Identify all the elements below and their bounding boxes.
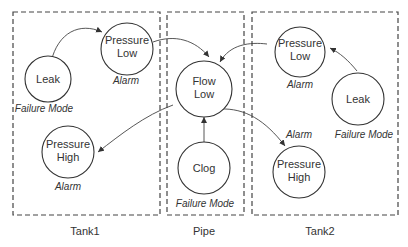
node-tank2-pressure-low[interactable]: Pressure Low Alarm [275,27,325,90]
node-type-label: Failure Mode [15,103,74,114]
node-tank2-pressure-high[interactable]: Pressure High Alarm [273,129,325,198]
node-label: Flow [192,75,215,87]
node-type-label: Failure Mode [335,129,394,140]
node-label: High [57,151,80,163]
node-pipe-clog[interactable]: Clog Failure Mode [176,142,235,209]
node-tank1-pressure-low[interactable]: Pressure Low Alarm [101,23,153,86]
edge-tank1-pressure-low-to-flow-low [153,38,209,57]
group-label-tank2: Tank2 [305,225,334,237]
node-tank1-pressure-high[interactable]: Pressure High Alarm [42,126,94,192]
node-label: High [288,171,311,183]
node-label: Clog [193,162,216,174]
node-type-label: Alarm [112,75,139,86]
node-label: Pressure [278,37,322,49]
node-tank1-leak[interactable]: Leak Failure Mode [15,56,74,114]
edge-tank1-leak-to-pressure-low [51,28,102,62]
edge-flow-low-to-tank1-pressure-high [98,105,173,152]
edge-tank2-leak-to-pressure-low [330,48,357,71]
node-type-label: Failure Mode [176,198,235,209]
fault-propagation-diagram: Leak Failure Mode Pressure Low Alarm Pre… [0,0,408,247]
node-type-label: Alarm [286,79,313,90]
group-label-pipe: Pipe [193,225,215,237]
node-pipe-flow-low[interactable]: Flow Low [176,61,232,117]
node-label: Low [194,88,214,100]
node-label: Leak [346,93,370,105]
node-type-label: Alarm [285,129,312,140]
node-label: Pressure [277,158,321,170]
node-label: Low [117,47,137,59]
node-label: Leak [36,73,60,85]
node-label: Pressure [46,138,90,150]
node-type-label: Alarm [54,181,81,192]
node-tank2-leak[interactable]: Leak Failure Mode [332,73,394,140]
node-label: Pressure [105,34,149,46]
node-label: Low [290,50,310,62]
group-label-tank1: Tank1 [70,225,99,237]
